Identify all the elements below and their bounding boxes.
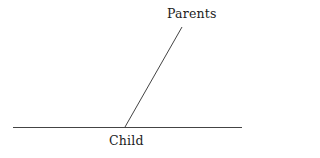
child-label: Child (109, 135, 144, 148)
parents-label: Parents (167, 8, 217, 21)
